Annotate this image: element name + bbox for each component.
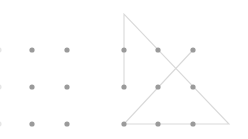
solution-dot xyxy=(155,84,160,89)
solution-dot xyxy=(121,47,126,52)
solution-dot xyxy=(155,121,160,126)
nine-dots-diagram xyxy=(0,0,248,139)
grid-dot xyxy=(29,47,34,52)
grid-dot xyxy=(64,47,69,52)
solution-dot xyxy=(121,84,126,89)
solution-dot xyxy=(155,47,160,52)
grid-dot xyxy=(64,84,69,89)
solution-dot xyxy=(190,121,195,126)
grid-dot xyxy=(29,121,34,126)
solution-dot xyxy=(121,121,126,126)
solution-dot xyxy=(190,84,195,89)
grid-dot xyxy=(29,84,34,89)
solution-dot xyxy=(190,47,195,52)
grid-dot xyxy=(64,121,69,126)
